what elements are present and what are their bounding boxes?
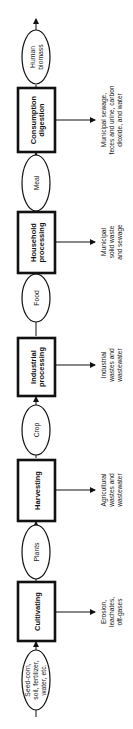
svg-text:Harvesting: Harvesting xyxy=(33,471,42,510)
svg-text:Municipal sewage,: Municipal sewage, xyxy=(100,93,108,147)
flow-inputs: Seed-corn, soil, fertilizer, water, etc. xyxy=(22,650,50,710)
svg-text:Cultivating: Cultivating xyxy=(33,592,42,631)
svg-text:Human: Human xyxy=(29,46,36,68)
process-industrial: Industrial processing Industrial wastes … xyxy=(18,338,123,396)
svg-text:feces and urine, carbon: feces and urine, carbon xyxy=(108,85,115,154)
svg-text:wastes and: wastes and xyxy=(108,348,115,383)
svg-text:dioxide, and water: dioxide, and water xyxy=(116,92,123,146)
svg-text:wastes and: wastes and xyxy=(108,473,115,508)
svg-text:biomass: biomass xyxy=(37,44,44,70)
svg-text:processing: processing xyxy=(37,222,46,262)
process-cultivating: Cultivating Erosion, leachates, off-gase… xyxy=(18,582,124,641)
svg-text:Food: Food xyxy=(33,290,40,306)
flow-plants: Plants xyxy=(22,525,50,579)
flow-meal: Meal xyxy=(22,155,50,211)
svg-text:Plants: Plants xyxy=(33,542,40,561)
svg-text:water, etc.: water, etc. xyxy=(40,664,47,696)
svg-text:wastewater: wastewater xyxy=(116,473,123,508)
svg-text:processing: processing xyxy=(37,347,46,387)
food-chain-diagram: Seed-corn, soil, fertilizer, water, etc.… xyxy=(0,0,133,729)
flow-human-biomass: Human biomass xyxy=(22,30,50,84)
svg-text:Agricultural: Agricultural xyxy=(100,473,108,507)
process-household: Household processing Municipal solid was… xyxy=(18,212,124,273)
svg-text:Erosion,: Erosion, xyxy=(100,600,107,624)
svg-text:Industrial: Industrial xyxy=(100,351,107,378)
svg-text:Municipal: Municipal xyxy=(100,228,108,256)
process-consumption: Consumption digestion Municipal sewage, … xyxy=(18,85,123,154)
svg-text:digestion: digestion xyxy=(37,103,46,137)
svg-text:Seed-corn,: Seed-corn, xyxy=(24,663,31,696)
svg-text:Meal: Meal xyxy=(33,175,40,190)
svg-text:solid waste: solid waste xyxy=(108,225,115,258)
process-harvesting: Harvesting Agricultural wastes and waste… xyxy=(18,460,123,521)
svg-text:Crop: Crop xyxy=(33,422,41,437)
svg-text:and sewage: and sewage xyxy=(116,224,124,260)
svg-text:off-gases: off-gases xyxy=(116,598,124,626)
svg-text:wastewater: wastewater xyxy=(116,348,123,383)
svg-text:soil, fertilizer,: soil, fertilizer, xyxy=(32,660,39,699)
svg-text:leachates,: leachates, xyxy=(108,597,115,627)
flow-food: Food xyxy=(22,274,50,322)
flow-crop: Crop xyxy=(22,405,50,455)
